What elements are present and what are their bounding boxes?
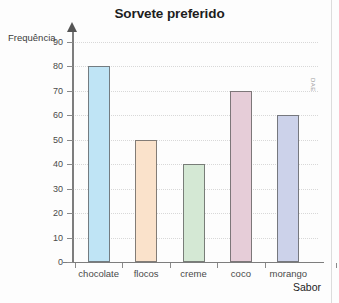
y-tick-label: 50	[53, 135, 63, 145]
x-tick-mark	[122, 263, 123, 268]
y-tick-label: 70	[53, 86, 63, 96]
y-tick-mark	[67, 140, 73, 141]
x-category-label: coco	[231, 268, 251, 279]
y-axis-arrow-icon	[67, 22, 77, 32]
y-tick-mark	[67, 262, 73, 263]
x-tick-mark	[217, 263, 218, 268]
y-tick-label: 20	[53, 208, 63, 218]
y-tick-mark	[67, 66, 73, 67]
y-tick-mark	[67, 189, 73, 190]
y-tick-label: 30	[53, 184, 63, 194]
chart-title: Sorvete preferido	[0, 6, 339, 21]
y-axis-line	[72, 30, 74, 262]
x-category-label: morango	[270, 268, 308, 279]
plot-area: 0102030405060708090	[75, 42, 312, 262]
x-category-label: creme	[180, 268, 206, 279]
x-tick-mark	[336, 263, 337, 268]
y-tick-mark	[67, 164, 73, 165]
y-tick-label: 10	[53, 233, 63, 243]
bar-flocos	[135, 140, 157, 262]
x-tick-mark	[75, 263, 76, 268]
x-tick-mark	[170, 263, 171, 268]
y-tick-label: 80	[53, 61, 63, 71]
bar-coco	[230, 91, 252, 262]
y-tick-label: 0	[58, 257, 63, 267]
bar-creme	[183, 164, 205, 262]
page-edge-rule	[331, 0, 332, 303]
chart-figure: DAE Sorvete preferido Frequência 0102030…	[0, 0, 339, 303]
y-tick-label: 40	[53, 159, 63, 169]
y-tick-mark	[67, 115, 73, 116]
y-tick-label: 60	[53, 110, 63, 120]
x-tick-mark	[265, 263, 266, 268]
gridline	[75, 91, 318, 92]
y-tick-label: 90	[53, 37, 63, 47]
y-tick-mark	[67, 213, 73, 214]
y-tick-mark	[67, 238, 73, 239]
y-tick-mark	[67, 42, 73, 43]
gridline	[75, 66, 318, 67]
x-category-label: chocolate	[78, 268, 119, 279]
y-tick-mark	[67, 91, 73, 92]
x-category-label: flocos	[134, 268, 159, 279]
x-axis-label: Sabor	[293, 281, 321, 293]
bar-chocolate	[88, 66, 110, 262]
bar-morango	[277, 115, 299, 262]
y-axis-label: Frequência	[8, 32, 56, 43]
gridline	[75, 42, 318, 43]
